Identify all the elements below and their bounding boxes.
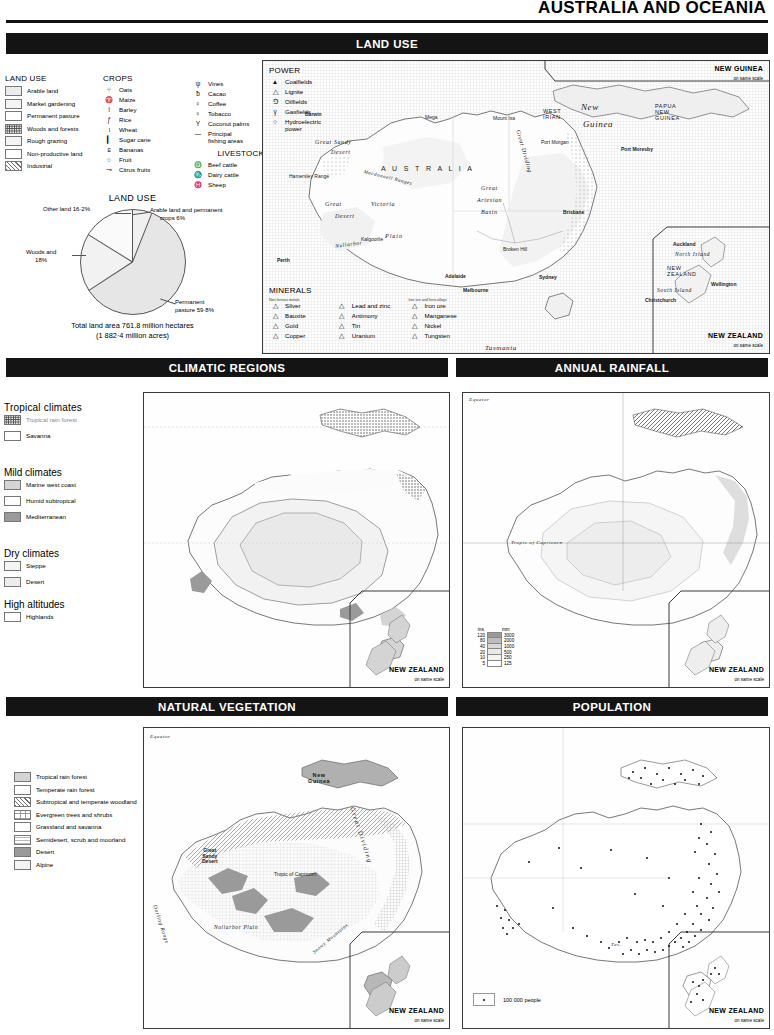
mineral-icon: △: [408, 332, 420, 339]
legend-label: Principal fishing areas: [208, 130, 250, 144]
natural-vegetation-map[interactable]: Equator NewGuinea GreatSandyDesert Tropi…: [143, 727, 450, 1029]
atlas-page: AUSTRALIA AND OCEANIA LAND USE LAND USE …: [0, 0, 774, 1035]
legend-item: Mediterranean: [4, 512, 134, 522]
legend-item: △Uranium: [336, 332, 397, 339]
map-label-great-2: Great: [325, 201, 342, 207]
land-use-map[interactable]: POWER ▲Coalfields △Lignite ⅁Oilfields γG…: [262, 60, 770, 354]
legend-label: Oats: [119, 86, 132, 93]
power-legend: POWER ▲Coalfields △Lignite ⅁Oilfields γG…: [269, 66, 339, 135]
section-banner-land-use: LAND USE: [6, 33, 768, 54]
legend-item: Highlands: [4, 612, 134, 622]
population-key: 100 000 people: [473, 993, 541, 1006]
map-label-australia: A U S T R A L I A: [381, 165, 474, 172]
swatch: [4, 415, 21, 425]
legend-item: ⑂Oats: [103, 86, 183, 93]
map-label-great-sandy-desert-veg: GreatSandyDesert: [202, 848, 218, 865]
legend-label: Coalfields: [285, 78, 312, 85]
map-city-perth: Perth: [277, 257, 290, 263]
legend-label: Arable land: [27, 87, 58, 94]
legend-label: Evergreen trees and shrubs: [36, 811, 112, 818]
pie-leader-line: [115, 213, 131, 214]
legend-label: Tin: [352, 322, 360, 329]
legend-item: ΥCoconut palms: [192, 120, 264, 127]
climate-group-heading: Tropical climates: [4, 402, 134, 413]
legend-label: Cacao: [208, 90, 226, 97]
legend-item: Desert: [14, 847, 164, 857]
swatch: [4, 512, 21, 522]
bananas-icon: ɕ: [103, 146, 115, 153]
mineral-icon: △: [336, 322, 348, 329]
legend-label: Bauxite: [285, 312, 306, 319]
map-label-wellington: Wellington: [711, 281, 736, 287]
map-label-desert-2: Desert: [335, 213, 355, 219]
new-guinea-inset-caption: NEW GUINEA on same scale: [715, 65, 764, 82]
rainfall-scale: ins. mm 1203000 802000 401000 20500 1025…: [471, 627, 522, 666]
swatch: [4, 561, 21, 571]
legend-item: △Bauxite: [269, 312, 324, 319]
legend-label: Coffee: [208, 100, 226, 107]
map-label-new: New: [581, 102, 599, 112]
mineral-icon: △: [336, 332, 348, 339]
fishing-areas-icon: —: [192, 130, 204, 137]
swatch: [4, 577, 21, 587]
map-label-new-guinea-veg: NewGuinea: [308, 772, 330, 784]
legend-label: Lead and zinc: [352, 302, 391, 309]
legend-item: ♀Tobacco: [192, 110, 264, 117]
swatch: [4, 431, 21, 441]
section-banner-natural-vegetation: NATURAL VEGETATION: [6, 697, 448, 716]
map-label-christchurch: Christchurch: [645, 297, 676, 303]
annual-rainfall-map[interactable]: Equator Tropic of Capricorn ins. mm 1203…: [462, 392, 770, 688]
legend-item: △Gold: [269, 322, 324, 329]
legend-item: ▎Sugar cane: [103, 136, 183, 143]
legend-label: Coconut palms: [208, 120, 249, 127]
population-map[interactable]: Tas. 100 000 people NEW ZEALAND on same …: [462, 727, 770, 1029]
climatic-regions-map[interactable]: NEW ZEALAND on same scale: [143, 392, 450, 688]
pie-divider: [132, 210, 133, 262]
legend-item: ○Hydroelectric power: [269, 118, 339, 132]
map-city-melbourne: Melbourne: [463, 287, 488, 293]
map-label-south-island: South Island: [657, 287, 692, 293]
map-label-tas-pop: Tas.: [611, 942, 621, 947]
legend-item: Alpine: [14, 860, 164, 870]
legend-item: ○Fruit: [103, 156, 183, 163]
legend-label: Barley: [119, 106, 137, 113]
pie-leader-line: [72, 255, 86, 256]
climate-legend: Tropical climates Tropical rain forest S…: [4, 402, 134, 625]
population-key-box: [473, 993, 495, 1006]
crops-legend-column-2: ψVines ƀCacao ♀Coffee ♀Tobacco ΥCoconut …: [192, 80, 264, 191]
legend-label: Rough grazing: [27, 137, 67, 144]
swatch: [5, 149, 22, 159]
map-city-mega: Mega: [425, 114, 438, 120]
legend-label: Vines: [208, 80, 223, 87]
legend-label: Tungsten: [424, 332, 450, 339]
legend-label: Semidesert, scrub and moorland: [36, 836, 125, 843]
map-label-equator: Equator: [469, 397, 490, 402]
land-use-pie-chart: LAND USE Arable land and permanent crops…: [10, 193, 255, 340]
swatch: [14, 822, 31, 832]
mineral-icon: △: [336, 312, 348, 319]
legend-item: △Lead and zinc: [336, 302, 397, 309]
map-city-port-morgan: Port Morgan: [541, 139, 569, 145]
population-dot-icon: [483, 999, 485, 1001]
map-label-nullarbor-plain-veg: Nullarbor Plain: [214, 924, 258, 930]
new-zealand-inset-caption-rainfall: NEW ZEALAND on same scale: [709, 666, 764, 683]
swatch: [14, 772, 31, 782]
rainfall-scale-header-mm: mm: [502, 627, 520, 632]
pie-label-arable: Arable land and permanent crops 6%: [150, 207, 222, 222]
legend-label: Marine west coast: [26, 481, 76, 488]
maize-icon: ♈: [103, 96, 115, 103]
pie-label-pasture: Permanent pasture 59·8%: [175, 299, 214, 314]
rice-icon: ƒ: [103, 116, 115, 123]
pie-chart-title: LAND USE: [10, 193, 255, 203]
legend-label: Beef cattle: [208, 161, 237, 168]
legend-item: ♏Dairy cattle: [192, 171, 264, 178]
climate-group-heading: Mild climates: [4, 467, 134, 478]
map-label-tasmania: Tasmania: [485, 344, 517, 352]
map-label-great-sandy: Great Sandy: [315, 139, 352, 145]
legend-label: Nickel: [424, 322, 441, 329]
legend-item: Permanent pasture: [5, 111, 95, 121]
map-city-broken-hill: Broken Hill: [503, 246, 527, 252]
legend-item: Arable land: [5, 86, 95, 96]
legend-label: Desert: [36, 848, 54, 855]
climate-map-graphic: [144, 393, 449, 687]
